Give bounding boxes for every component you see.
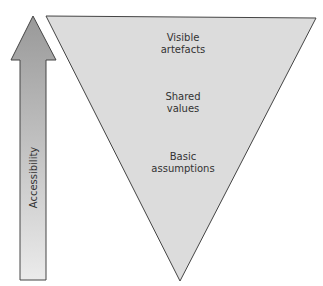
layer-visible-artefacts: Visible artefacts xyxy=(123,32,243,56)
layer-basic-assumptions: Basic assumptions xyxy=(123,151,243,175)
accessibility-label: Accessibility xyxy=(28,128,39,228)
layer-shared-values: Shared values xyxy=(123,91,243,115)
